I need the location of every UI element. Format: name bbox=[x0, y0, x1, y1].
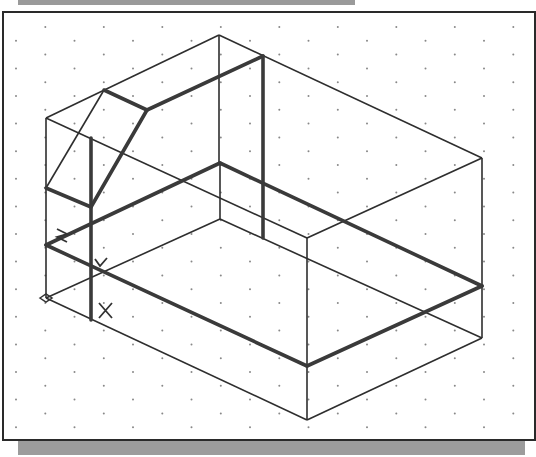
grid-dot bbox=[161, 109, 163, 111]
grid-dot bbox=[74, 67, 76, 69]
grid-dot bbox=[249, 261, 251, 263]
grid-dot bbox=[15, 371, 17, 373]
grid-dot bbox=[132, 399, 134, 401]
thin-edge bbox=[307, 158, 482, 238]
grid-dot bbox=[308, 40, 310, 42]
grid-dot bbox=[425, 150, 427, 152]
grid-dot bbox=[366, 371, 368, 373]
grid-dot bbox=[132, 288, 134, 290]
grid-dot bbox=[395, 164, 397, 166]
grid-dot bbox=[249, 40, 251, 42]
thin-edge bbox=[46, 298, 307, 420]
grid-dot bbox=[220, 385, 222, 387]
grid-dot bbox=[191, 316, 193, 318]
grid-dot bbox=[278, 219, 280, 221]
grid-dot bbox=[44, 330, 46, 332]
grid-dot bbox=[337, 247, 339, 249]
grid-dot bbox=[454, 330, 456, 332]
thick-edge bbox=[46, 245, 307, 366]
grid-dot bbox=[454, 302, 456, 304]
grid-dot bbox=[103, 412, 105, 414]
grid-dot bbox=[454, 109, 456, 111]
grid-dot bbox=[395, 136, 397, 138]
grid-dot bbox=[132, 67, 134, 69]
grid-dot bbox=[512, 385, 514, 387]
grid-dot bbox=[132, 233, 134, 235]
thin-edge bbox=[46, 118, 307, 238]
grid-dot bbox=[425, 426, 427, 428]
grid-dot bbox=[15, 261, 17, 263]
grid-dot bbox=[395, 192, 397, 194]
thick-edge bbox=[147, 56, 263, 110]
grid-dot bbox=[366, 426, 368, 428]
ucs-y-label bbox=[95, 258, 107, 266]
grid-dot bbox=[454, 219, 456, 221]
grid-dot bbox=[74, 316, 76, 318]
grid-dot bbox=[278, 385, 280, 387]
grid-dot bbox=[132, 40, 134, 42]
grid-dot bbox=[220, 26, 222, 28]
grid-dot bbox=[103, 247, 105, 249]
grid-dot bbox=[103, 81, 105, 83]
grid-dot bbox=[15, 399, 17, 401]
grid-dot bbox=[15, 123, 17, 125]
grid-dot bbox=[395, 219, 397, 221]
grid-dot bbox=[337, 330, 339, 332]
grid-dot bbox=[103, 385, 105, 387]
grid-dot bbox=[483, 399, 485, 401]
grid-dot bbox=[483, 288, 485, 290]
grid-dot bbox=[161, 330, 163, 332]
grid-dot bbox=[454, 357, 456, 359]
grid-dot bbox=[308, 178, 310, 180]
grid-dot bbox=[220, 302, 222, 304]
grid-dot bbox=[337, 412, 339, 414]
grid-dot bbox=[512, 330, 514, 332]
grid-dot bbox=[15, 426, 17, 428]
grid-dot bbox=[512, 164, 514, 166]
grid-dot bbox=[366, 288, 368, 290]
grid-dot bbox=[278, 274, 280, 276]
grid-dot bbox=[74, 399, 76, 401]
grid-dot bbox=[366, 343, 368, 345]
grid-dot bbox=[132, 95, 134, 97]
grid-dot bbox=[425, 399, 427, 401]
grid-dot bbox=[191, 150, 193, 152]
grid-dot bbox=[15, 343, 17, 345]
grid-dot bbox=[132, 261, 134, 263]
grid-dot bbox=[103, 109, 105, 111]
grid-dot bbox=[366, 316, 368, 318]
grid-dot bbox=[161, 219, 163, 221]
grid-dot bbox=[44, 385, 46, 387]
grid-dot bbox=[308, 67, 310, 69]
grid-dot bbox=[337, 302, 339, 304]
grid-dot bbox=[512, 274, 514, 276]
grid-dot bbox=[103, 136, 105, 138]
grid-dot bbox=[74, 261, 76, 263]
grid-dot bbox=[132, 150, 134, 152]
grid-dot bbox=[161, 274, 163, 276]
grid-dot bbox=[483, 67, 485, 69]
grid-dot bbox=[15, 288, 17, 290]
grid-dot bbox=[512, 192, 514, 194]
grid-dot bbox=[249, 95, 251, 97]
grid-dot bbox=[425, 371, 427, 373]
grid-dot bbox=[103, 330, 105, 332]
grid-dot bbox=[483, 343, 485, 345]
grid-dot bbox=[220, 109, 222, 111]
grid-dot bbox=[483, 150, 485, 152]
grid-dot bbox=[278, 26, 280, 28]
grid-dot bbox=[454, 247, 456, 249]
grid-dot bbox=[249, 67, 251, 69]
grid-dot bbox=[15, 150, 17, 152]
grid-dot bbox=[454, 81, 456, 83]
grid-dot bbox=[15, 95, 17, 97]
grid-dot bbox=[15, 205, 17, 207]
grid-dot bbox=[161, 302, 163, 304]
grid-dot bbox=[278, 136, 280, 138]
grid-dot bbox=[337, 164, 339, 166]
grid-dot bbox=[395, 26, 397, 28]
thick-edge bbox=[46, 188, 91, 207]
grid-dot bbox=[191, 288, 193, 290]
grid-dot bbox=[337, 357, 339, 359]
